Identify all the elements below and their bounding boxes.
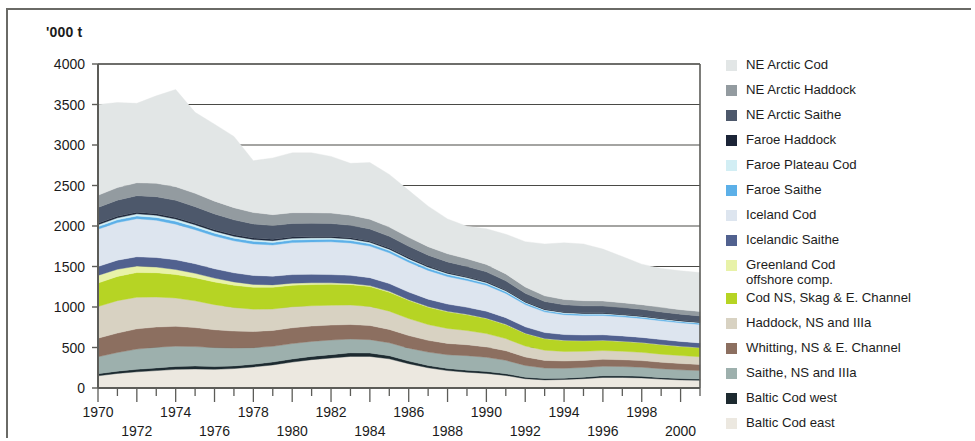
legend-item-label: Icelandic Saithe: [746, 231, 839, 247]
y-axis-tick-label: 3500: [54, 97, 85, 113]
y-axis-tick-label: 0: [77, 380, 85, 396]
legend-swatch-icon: [726, 135, 737, 146]
legend-item-label: Iceland Cod: [746, 206, 816, 222]
legend-item[interactable]: Baltic Cod west: [726, 389, 972, 412]
legend-item[interactable]: Icelandic Saithe: [726, 231, 972, 254]
legend-swatch-icon: [726, 260, 737, 271]
legend-swatch-icon: [726, 418, 737, 429]
x-axis-tick-label: 1996: [587, 423, 618, 439]
legend-item[interactable]: Iceland Cod: [726, 206, 972, 229]
y-axis-tick-label: 3000: [54, 137, 85, 153]
x-axis-tick-label: 1978: [238, 404, 269, 420]
x-axis-tick-label: 1982: [315, 404, 346, 420]
x-axis-tick-label: 1974: [160, 404, 191, 420]
y-axis-tick-label: 1000: [54, 299, 85, 315]
legend-swatch-icon: [726, 318, 737, 329]
x-axis-tick-label: 1994: [548, 404, 579, 420]
legend-item-label: Faroe Haddock: [746, 131, 836, 147]
figure-container: '000 t 05001000150020002500300035004000 …: [0, 0, 975, 441]
legend-item-label: Faroe Saithe: [746, 181, 822, 197]
x-axis-tick-label: 1970: [82, 404, 113, 420]
x-axis-tick-label: 1972: [121, 423, 152, 439]
legend-item-label: Cod NS, Skag & E. Channel: [746, 289, 911, 305]
legend-swatch-icon: [726, 210, 737, 221]
x-axis-ticks-group: 1970197219741976197819801982198419861988…: [82, 388, 700, 439]
legend-item-label: Saithe, NS and IIIa: [746, 364, 857, 380]
y-axis-ticks-group: 05001000150020002500300035004000: [54, 56, 98, 396]
y-axis-tick-label: 500: [62, 340, 86, 356]
legend-item-label: Whitting, NS & E. Channel: [746, 339, 901, 355]
legend-swatch-icon: [726, 368, 737, 379]
y-axis-tick-label: 2500: [54, 178, 85, 194]
x-axis-tick-label: 1976: [199, 423, 230, 439]
legend-swatch-icon: [726, 235, 737, 246]
legend-swatch-icon: [726, 185, 737, 196]
x-axis-tick-label: 1986: [393, 404, 424, 420]
x-axis-tick-label: 1998: [626, 404, 657, 420]
legend-item[interactable]: NE Arctic Saithe: [726, 106, 972, 129]
legend-item[interactable]: Saithe, NS and IIIa: [726, 364, 972, 387]
legend-swatch-icon: [726, 393, 737, 404]
legend-swatch-icon: [726, 343, 737, 354]
legend-item[interactable]: Faroe Plateau Cod: [726, 156, 972, 179]
legend-item[interactable]: Baltic Cod east: [726, 414, 972, 437]
x-axis-tick-label: 1992: [510, 423, 541, 439]
legend-item[interactable]: Faroe Haddock: [726, 131, 972, 154]
x-axis-tick-label: 1984: [354, 423, 385, 439]
legend-item-label: Haddock, NS and IIIa: [746, 314, 871, 330]
x-axis-tick-label: 2000: [665, 423, 696, 439]
legend-item[interactable]: Whitting, NS & E. Channel: [726, 339, 972, 362]
legend-item-label: Greenland Cod offshore comp.: [746, 256, 835, 287]
x-axis-tick-label: 1990: [471, 404, 502, 420]
legend-item-label: NE Arctic Haddock: [746, 81, 856, 97]
chart-legend: NE Arctic CodNE Arctic HaddockNE Arctic …: [726, 56, 972, 439]
legend-item[interactable]: Faroe Saithe: [726, 181, 972, 204]
x-axis-tick-label: 1988: [432, 423, 463, 439]
y-axis-tick-label: 2000: [54, 218, 85, 234]
legend-item[interactable]: Haddock, NS and IIIa: [726, 314, 972, 337]
legend-item-label: Baltic Cod east: [746, 414, 835, 430]
legend-swatch-icon: [726, 110, 737, 121]
legend-item-label: Faroe Plateau Cod: [746, 156, 857, 172]
legend-swatch-icon: [726, 160, 737, 171]
legend-swatch-icon: [726, 85, 737, 96]
y-axis-tick-label: 4000: [54, 56, 85, 72]
legend-item[interactable]: NE Arctic Haddock: [726, 81, 972, 104]
legend-item-label: NE Arctic Saithe: [746, 106, 841, 122]
legend-item-label: NE Arctic Cod: [746, 56, 828, 72]
legend-item[interactable]: Greenland Cod offshore comp.: [726, 256, 972, 287]
y-axis-tick-label: 1500: [54, 259, 85, 275]
legend-item[interactable]: NE Arctic Cod: [726, 56, 972, 79]
area-series-group: [98, 90, 700, 388]
legend-swatch-icon: [726, 293, 737, 304]
x-axis-tick-label: 1980: [277, 423, 308, 439]
legend-item-label: Baltic Cod west: [746, 389, 837, 405]
legend-swatch-icon: [726, 60, 737, 71]
legend-item[interactable]: Cod NS, Skag & E. Channel: [726, 289, 972, 312]
